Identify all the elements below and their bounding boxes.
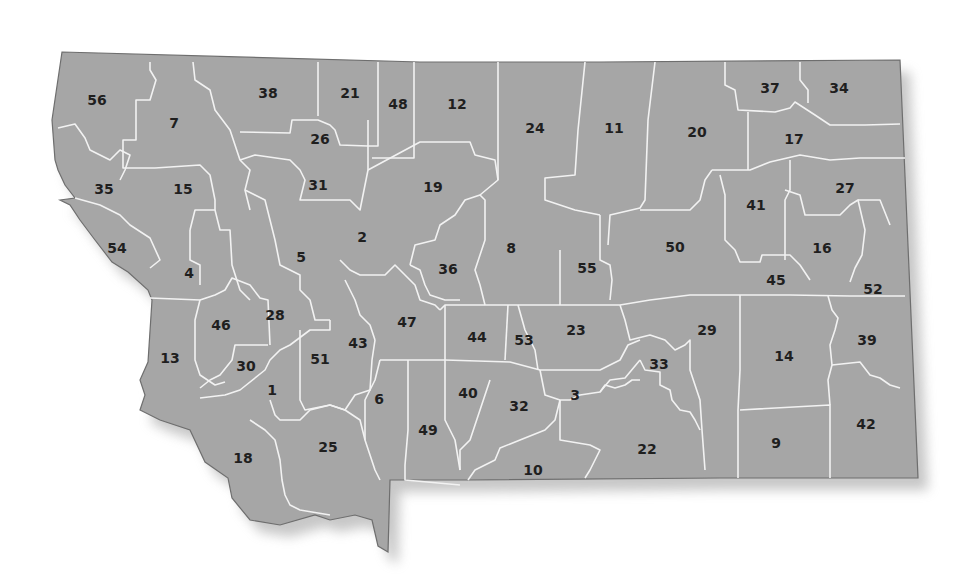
county-label-47: 47 bbox=[397, 314, 416, 330]
county-label-24: 24 bbox=[525, 120, 545, 136]
county-label-4: 4 bbox=[184, 265, 194, 281]
county-label-17: 17 bbox=[784, 131, 803, 147]
county-label-51: 51 bbox=[310, 351, 329, 367]
county-label-43: 43 bbox=[348, 335, 367, 351]
county-label-29: 29 bbox=[697, 322, 716, 338]
county-label-12: 12 bbox=[447, 96, 466, 112]
county-label-45: 45 bbox=[766, 272, 785, 288]
county-label-46: 46 bbox=[211, 317, 230, 333]
county-label-52: 52 bbox=[863, 281, 882, 297]
county-label-26: 26 bbox=[310, 131, 329, 147]
county-label-2: 2 bbox=[357, 229, 367, 245]
county-label-8: 8 bbox=[506, 240, 516, 256]
county-label-13: 13 bbox=[160, 350, 179, 366]
county-label-36: 36 bbox=[438, 261, 457, 277]
county-label-15: 15 bbox=[173, 181, 192, 197]
county-label-40: 40 bbox=[458, 385, 478, 401]
county-label-54: 54 bbox=[107, 240, 127, 256]
county-label-7: 7 bbox=[169, 115, 179, 131]
county-label-48: 48 bbox=[388, 96, 407, 112]
county-label-27: 27 bbox=[835, 180, 854, 196]
county-label-19: 19 bbox=[423, 179, 442, 195]
county-label-18: 18 bbox=[233, 450, 252, 466]
county-label-41: 41 bbox=[746, 197, 765, 213]
county-label-9: 9 bbox=[771, 435, 781, 451]
county-label-33: 33 bbox=[649, 356, 668, 372]
county-label-50: 50 bbox=[665, 239, 685, 255]
county-label-10: 10 bbox=[523, 462, 543, 478]
county-label-3: 3 bbox=[570, 387, 580, 403]
county-label-37: 37 bbox=[760, 80, 779, 96]
county-label-32: 32 bbox=[509, 398, 528, 414]
county-label-49: 49 bbox=[418, 422, 437, 438]
county-label-35: 35 bbox=[94, 181, 113, 197]
county-label-28: 28 bbox=[265, 307, 284, 323]
county-label-34: 34 bbox=[829, 80, 849, 96]
county-label-55: 55 bbox=[577, 260, 596, 276]
county-label-5: 5 bbox=[296, 249, 306, 265]
county-label-21: 21 bbox=[340, 85, 359, 101]
county-label-11: 11 bbox=[604, 120, 623, 136]
county-label-1: 1 bbox=[267, 382, 277, 398]
montana-county-map: 5673821481224112037341726351531194127283… bbox=[0, 0, 961, 578]
county-label-25: 25 bbox=[318, 439, 337, 455]
county-label-20: 20 bbox=[687, 124, 707, 140]
county-label-30: 30 bbox=[236, 358, 256, 374]
county-label-38: 38 bbox=[258, 85, 277, 101]
county-label-53: 53 bbox=[514, 332, 533, 348]
county-label-39: 39 bbox=[857, 332, 876, 348]
county-label-56: 56 bbox=[87, 92, 106, 108]
county-label-6: 6 bbox=[374, 391, 384, 407]
county-label-23: 23 bbox=[566, 322, 585, 338]
county-label-31: 31 bbox=[308, 177, 327, 193]
county-label-44: 44 bbox=[467, 329, 487, 345]
county-label-42: 42 bbox=[856, 416, 875, 432]
county-label-14: 14 bbox=[774, 348, 794, 364]
county-label-22: 22 bbox=[637, 441, 656, 457]
county-label-16: 16 bbox=[812, 240, 831, 256]
